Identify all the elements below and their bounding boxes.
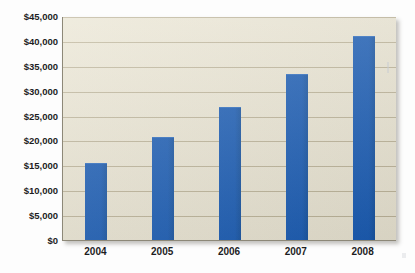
x-axis-tick-label: 2007 xyxy=(273,246,319,258)
bar-2007 xyxy=(286,74,308,240)
bar-2005 xyxy=(152,137,174,240)
y-axis-tick-label: $10,000 xyxy=(1,186,58,196)
gridline xyxy=(63,42,396,43)
y-axis-tick-label: $0 xyxy=(1,236,58,246)
y-axis-tick-label: $15,000 xyxy=(1,161,58,171)
y-axis-tick-label: $40,000 xyxy=(1,37,58,47)
x-axis-tick-label: 2008 xyxy=(340,246,386,258)
scan-artifact xyxy=(402,253,406,258)
gridline xyxy=(63,92,396,93)
y-axis-tick-label: $25,000 xyxy=(1,112,58,122)
gridline xyxy=(63,67,396,68)
plot-area xyxy=(62,17,396,241)
x-axis-tick-label: 2005 xyxy=(139,246,185,258)
y-axis-tick-label: $45,000 xyxy=(1,12,58,22)
y-axis-tick-label: $5,000 xyxy=(1,211,58,221)
chart-title-cropped xyxy=(70,0,300,5)
scan-artifact xyxy=(387,62,389,73)
bar-chart-figure: $0$5,000$10,000$15,000$20,000$25,000$30,… xyxy=(0,0,415,273)
bar-2004 xyxy=(85,163,107,240)
y-axis-tick-label: $35,000 xyxy=(1,62,58,72)
bar-2006 xyxy=(219,107,241,240)
gridline xyxy=(63,17,396,18)
bar-2008 xyxy=(353,36,375,240)
y-axis-tick-label: $30,000 xyxy=(1,87,58,97)
x-axis-tick-label: 2004 xyxy=(72,246,118,258)
y-axis: $0$5,000$10,000$15,000$20,000$25,000$30,… xyxy=(0,0,58,273)
y-axis-tick-label: $20,000 xyxy=(1,136,58,146)
x-axis-tick-label: 2006 xyxy=(206,246,252,258)
